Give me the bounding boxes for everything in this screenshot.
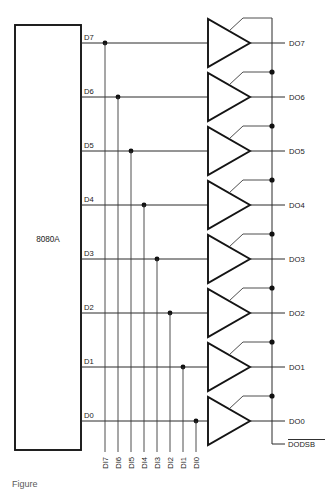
- data-row-d7: D7: [81, 33, 208, 45]
- data-row-d6: D6: [81, 87, 208, 99]
- data-row-d3: D3: [81, 249, 208, 261]
- tristate-buffer-4: DO4: [208, 177, 305, 229]
- tristate-buffer-2: DO2: [208, 285, 305, 337]
- input-bus-labels: DI7 DI6 DI5 DI4 DI3 DI2 DI1 DI0: [101, 457, 201, 469]
- output-label-do1: DO1: [289, 363, 305, 372]
- data-row-d4: D4: [81, 195, 208, 207]
- enable-junction-6: [269, 69, 274, 74]
- data-row-d5: D5: [81, 141, 208, 153]
- tristate-buffer-1: DO1: [208, 339, 305, 391]
- schematic-canvas: 8080A D7 D6 D5 D4 D3 D2: [0, 0, 333, 489]
- bus-label-di7: DI7: [101, 457, 110, 469]
- data-row-d1: D1: [81, 357, 208, 369]
- bus-label-di5: DI5: [127, 457, 136, 469]
- enable-junction-4: [269, 177, 274, 182]
- input-bus-lines: [105, 43, 196, 452]
- output-label-do7: DO7: [289, 39, 305, 48]
- pin-label-d6: D6: [84, 87, 94, 96]
- figure-caption: Figure: [12, 479, 38, 489]
- pin-label-d0: D0: [84, 411, 94, 420]
- pin-label-d5: D5: [84, 141, 94, 150]
- pin-label-d1: D1: [84, 357, 94, 366]
- output-label-do3: DO3: [289, 255, 305, 264]
- tristate-buffer-6: DO6: [208, 69, 305, 121]
- enable-signal-label: DODSB: [288, 440, 315, 449]
- bus-label-di6: DI6: [114, 457, 123, 469]
- pin-label-d2: D2: [84, 303, 94, 312]
- pin-label-d4: D4: [84, 195, 94, 204]
- chip-8080a-label: 8080A: [36, 235, 60, 244]
- bus-label-di3: DI3: [153, 457, 162, 469]
- output-label-do0: DO0: [289, 417, 305, 426]
- output-label-do5: DO5: [289, 147, 305, 156]
- output-label-do6: DO6: [289, 93, 305, 102]
- enable-junction-5: [269, 123, 274, 128]
- data-row-d0: D0: [81, 411, 208, 423]
- pin-label-d3: D3: [84, 249, 94, 258]
- tristate-buffer-0: DO0: [208, 393, 305, 445]
- tristate-buffer-7: DO7: [208, 18, 305, 67]
- enable-junction-0: [269, 393, 274, 398]
- tristate-buffer-5: DO5: [208, 123, 305, 175]
- enable-junction-2: [269, 285, 274, 290]
- pin-label-d7: D7: [84, 33, 94, 42]
- output-label-do4: DO4: [289, 201, 305, 210]
- bus-label-di0: DI0: [192, 457, 201, 469]
- tristate-buffer-3: DO3: [208, 231, 305, 283]
- enable-signal-label-group: DODSB: [288, 440, 325, 450]
- enable-junction-3: [269, 231, 274, 236]
- bus-label-di4: DI4: [140, 457, 149, 469]
- output-label-do2: DO2: [289, 309, 305, 318]
- logic-diagram-svg: 8080A D7 D6 D5 D4 D3 D2: [0, 0, 333, 489]
- bus-label-di2: DI2: [166, 457, 175, 469]
- enable-junction-1: [269, 339, 274, 344]
- bus-label-di1: DI1: [179, 457, 188, 469]
- data-row-d2: D2: [81, 303, 208, 315]
